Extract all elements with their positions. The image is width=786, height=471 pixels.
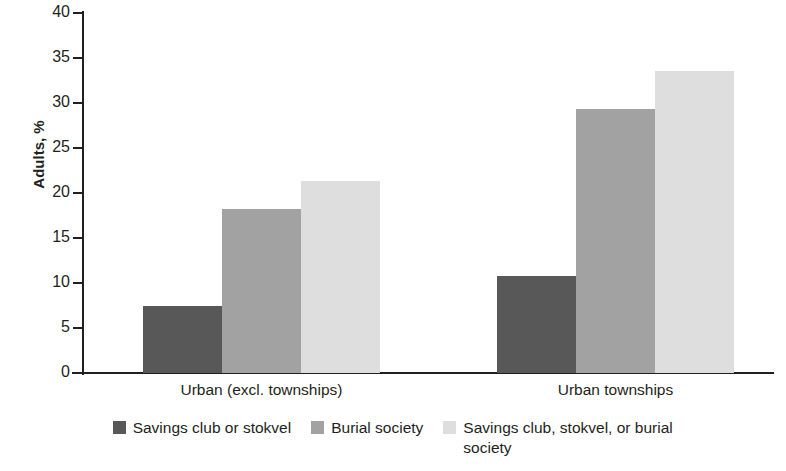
bar bbox=[301, 181, 380, 373]
x-axis-category-label: Urban (excl. townships) bbox=[112, 381, 412, 399]
legend-swatch-icon bbox=[311, 421, 324, 434]
legend-swatch-icon bbox=[443, 421, 456, 434]
bar bbox=[576, 109, 655, 373]
bar bbox=[655, 71, 734, 373]
legend-item[interactable]: Savings club, stokvel, or burial society bbox=[443, 418, 673, 458]
legend-item[interactable]: Burial society bbox=[311, 418, 423, 438]
legend-swatch-icon bbox=[113, 421, 126, 434]
bar bbox=[222, 209, 301, 373]
bars-layer bbox=[0, 13, 786, 373]
bar bbox=[497, 276, 576, 373]
legend-label: Savings club, stokvel, or burial society bbox=[463, 418, 673, 458]
chart-legend: Savings club or stokvelBurial societySav… bbox=[0, 418, 786, 458]
bar-chart-figure: Adults, % 0510152025303540 Urban (excl. … bbox=[0, 0, 786, 471]
x-axis-category-label: Urban townships bbox=[466, 381, 766, 399]
bar bbox=[143, 306, 222, 374]
legend-label: Burial society bbox=[331, 418, 423, 438]
legend-label: Savings club or stokvel bbox=[133, 418, 292, 438]
legend-item[interactable]: Savings club or stokvel bbox=[113, 418, 292, 438]
